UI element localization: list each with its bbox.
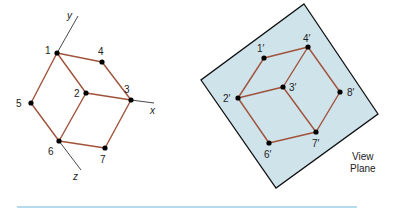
cube-vertex-label: 4 [98,46,104,57]
projected-vertex-label: 8′ [347,87,355,98]
cube-edge [57,53,86,93]
cube-projection-diagram: yxz12345671′2′3′4′6′7′8′ View Plane [0,0,395,209]
y-axis-label: y [66,10,73,21]
projected-vertex-dot [305,44,310,49]
z-axis [59,141,81,170]
cube-vertex-dot [28,100,33,105]
cube-vertex-label: 3 [124,84,130,95]
projected-vertex-label: 4′ [303,33,311,44]
projected-vertex-label: 1′ [257,43,265,54]
cube-vertex-label: 6 [48,146,54,157]
cube-edge [59,93,86,141]
cube-vertex-label: 7 [100,154,106,165]
projected-vertex-label: 3′ [289,82,297,93]
cube-edge [59,141,105,148]
projected-vertex-dot [266,140,271,145]
cube-edge [57,53,102,62]
z-axis-label: z [72,171,78,182]
projected-vertex-dot [337,89,342,94]
projected-vertex-dot [313,129,318,134]
cube-edge [31,53,57,103]
cube-vertex-label: 5 [16,98,22,109]
projected-vertex-dot [280,84,285,89]
cube-vertex-dot [56,138,61,143]
cube-edge [105,100,131,148]
y-axis [57,16,78,53]
projected-vertex-label: 6′ [264,149,272,160]
view-plane-label-line2: Plane [350,163,376,174]
cube-edge [31,103,59,141]
x-axis [131,100,154,103]
cube-vertex-dot [83,90,88,95]
cube-vertex-label: 2 [74,88,80,99]
cube-vertex-dot [128,97,133,102]
cube-vertex-dot [99,59,104,64]
projected-vertex-dot [235,95,240,100]
view-plane-label-line1: View [352,151,374,162]
projected-vertex-dot [261,55,266,60]
projected-vertex-label: 2′ [223,93,231,104]
projected-vertex-label: 7′ [312,138,320,149]
x-axis-label: x [149,105,156,116]
cube-vertex-dot [102,145,107,150]
cube-vertex-label: 1 [45,45,51,56]
cube-vertex-dot [54,50,59,55]
